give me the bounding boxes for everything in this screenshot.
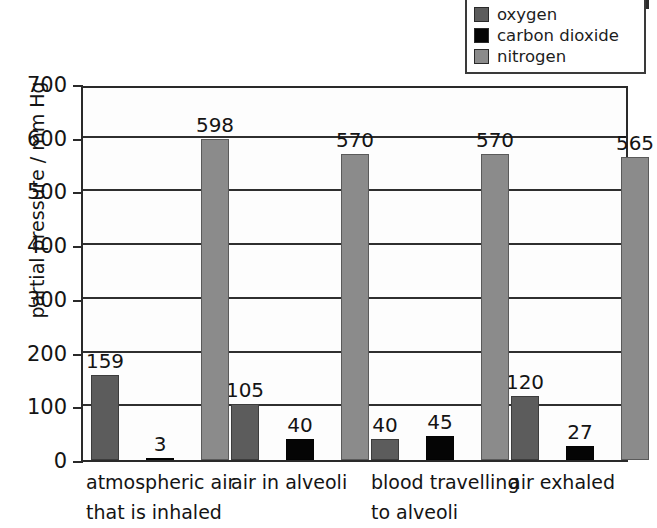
legend-item-oxygen[interactable]: oxygen [474, 4, 638, 25]
bar-carbon-dioxide-3[interactable] [566, 446, 594, 461]
bar-value-label: 570 [467, 130, 523, 150]
x-axis-category-label: that is inhaled [86, 500, 222, 524]
bar-value-label: 27 [552, 422, 608, 442]
plot-area: 159105401203404527598570570565 [81, 86, 628, 462]
bar-carbon-dioxide-2[interactable] [426, 436, 454, 460]
y-axis-tick-label: 600 [27, 129, 67, 150]
x-axis-category-label: atmospheric air [86, 470, 235, 494]
bar-carbon-dioxide-0[interactable] [146, 458, 174, 460]
legend-item-label: carbon dioxide [497, 27, 619, 45]
legend-item-carbon-dioxide[interactable]: carbon dioxide [474, 25, 638, 46]
legend-swatch-icon [474, 49, 489, 64]
bar-carbon-dioxide-1[interactable] [286, 439, 314, 460]
x-axis-category-label: blood travelling [371, 470, 519, 494]
legend-item-nitrogen[interactable]: nitrogen [474, 46, 638, 67]
y-axis-tick-label: 400 [27, 236, 67, 257]
bar-value-label: 3 [132, 434, 188, 454]
bar-nitrogen-1[interactable] [341, 154, 369, 460]
bar-oxygen-3[interactable] [511, 396, 539, 460]
bar-value-label: 45 [412, 412, 468, 432]
bar-oxygen-1[interactable] [231, 404, 259, 460]
bar-value-label: 565 [607, 133, 657, 153]
legend-swatch-icon [474, 7, 489, 22]
bar-nitrogen-3[interactable] [621, 157, 649, 460]
bar-value-label: 598 [187, 115, 243, 135]
bar-nitrogen-0[interactable] [201, 139, 229, 460]
legend-item-label: oxygen [497, 6, 557, 24]
bar-oxygen-2[interactable] [371, 439, 399, 460]
y-axis-tick-label: 300 [27, 290, 67, 311]
bar-value-label: 159 [77, 351, 133, 371]
legend-item-label: nitrogen [497, 48, 566, 66]
y-axis-tick-label: 0 [54, 451, 67, 472]
bar-nitrogen-2[interactable] [481, 154, 509, 460]
y-axis-tick-label: 700 [27, 75, 67, 96]
y-axis-tick-label: 200 [27, 344, 67, 365]
bar-value-label: 40 [272, 415, 328, 435]
x-axis-category-label: air in alveoli [231, 470, 347, 494]
chart-legend: oxygencarbon dioxidenitrogen [465, 0, 646, 74]
x-axis-category-label: air exhaled [509, 470, 615, 494]
y-axis-tick-label: 500 [27, 182, 67, 203]
x-axis-category-label: to alveoli [371, 500, 458, 524]
bar-value-label: 570 [327, 130, 383, 150]
bar-oxygen-0[interactable] [91, 375, 119, 460]
legend-swatch-icon [474, 28, 489, 43]
y-axis-tick-label: 100 [27, 397, 67, 418]
